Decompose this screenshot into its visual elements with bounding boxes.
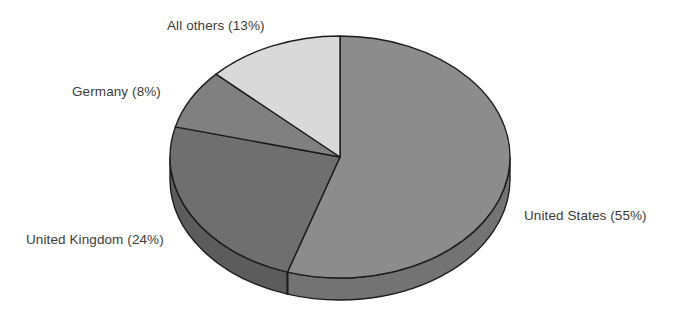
pie-chart-graphic [0, 0, 685, 327]
slice-label-united-kingdom: United Kingdom (24%) [26, 232, 164, 247]
slice-label-united-states: United States (55%) [524, 208, 647, 223]
slice-label-germany: Germany (8%) [72, 84, 161, 99]
pie-chart: All others (13%) Germany (8%) United Kin… [0, 0, 685, 327]
slice-label-all-others: All others (13%) [167, 18, 265, 33]
pie-geometry [170, 36, 510, 300]
